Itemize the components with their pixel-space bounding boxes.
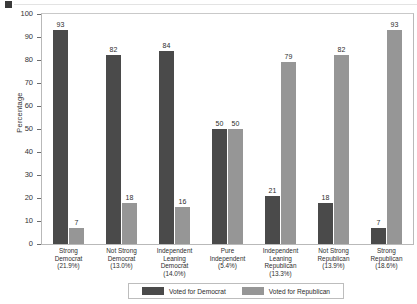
x-axis-category-line: Republican [360,255,413,263]
x-axis-category-label: IndependentLeaningRepublican(13.3%) [254,247,307,277]
y-axis-tick-label: 40 [25,147,33,156]
bars-area: 93782188416505021791882793 [42,14,413,244]
legend-swatch-republican [242,287,264,295]
bar-group: 8218 [106,14,138,244]
x-axis-category-line: Leaning [254,255,307,263]
x-axis-category-line: Republican [307,255,360,263]
x-axis-category-line: Pure [201,247,254,255]
x-axis-category-line: Independent [254,247,307,255]
x-axis-category-line: (21.9%) [42,262,95,270]
x-axis-category-line: (14.0%) [148,270,201,278]
bar [228,129,244,244]
chart-legend: Voted for Democrat Voted for Republican [128,283,344,299]
bar [159,51,175,244]
legend-swatch-democrat [142,287,164,295]
bar-value-label: 18 [110,194,150,201]
bar-value-label: 79 [269,53,309,60]
bar-group: 2179 [265,14,297,244]
bar [53,30,69,244]
y-axis-tick-label: 60 [25,101,33,110]
x-axis-category-line: Not Strong [95,247,148,255]
x-axis-category-line: Strong [360,247,413,255]
bar-value-label: 16 [163,198,203,205]
x-axis-category-line: (13.0%) [95,262,148,270]
x-axis-category-label: IndependentLeaningDemocrat(14.0%) [148,247,201,277]
bar-chart: Percentage 0102030405060708090100 937821… [0,0,417,304]
bar-group: 793 [371,14,403,244]
x-axis-category-line: Not Strong [307,247,360,255]
bar [69,228,85,244]
scan-artifact-mark [5,1,12,8]
y-axis-tick-label: 20 [25,193,33,202]
x-axis-category-line: (5.4%) [201,262,254,270]
bar-value-label: 93 [375,21,415,28]
x-axis-category-line: Leaning [148,255,201,263]
y-axis-title: Percentage [15,63,24,163]
x-axis-category-labels: StrongDemocrat(21.9%)Not StrongDemocrat(… [42,247,413,281]
x-axis-category-line: (13.9%) [307,262,360,270]
bar [387,30,403,244]
y-axis-tick-label: 30 [25,170,33,179]
y-axis-tick-label: 80 [25,55,33,64]
bar [371,228,387,244]
scan-artifact-line [14,4,417,5]
legend-label-republican: Voted for Republican [269,288,330,295]
bar-value-label: 50 [216,120,256,127]
x-axis-category-line: Republican [254,262,307,270]
x-axis-category-line: Independent [148,247,201,255]
bar [265,196,281,244]
bar-value-label: 93 [41,21,81,28]
x-axis-category-line: Independent [201,255,254,263]
y-axis-tick-label: 90 [25,32,33,41]
bar [175,207,191,244]
bar [212,129,228,244]
x-axis-category-label: StrongRepublican(18.6%) [360,247,413,270]
bar-group: 1882 [318,14,350,244]
bar-group: 937 [53,14,85,244]
x-axis-category-label: StrongDemocrat(21.9%) [42,247,95,270]
bar-value-label: 7 [57,219,97,226]
x-axis-category-label: PureIndependent(5.4%) [201,247,254,270]
x-axis-category-line: Democrat [148,262,201,270]
legend-entry-democrat: Voted for Democrat [142,287,226,295]
x-axis-category-label: Not StrongRepublican(13.9%) [307,247,360,270]
x-axis-category-label: Not StrongDemocrat(13.0%) [95,247,148,270]
bar [281,62,297,244]
bar [106,55,122,244]
legend-label-democrat: Voted for Democrat [169,288,226,295]
y-axis-tick-label: 100 [20,9,33,18]
y-axis-tick-label: 10 [25,216,33,225]
y-axis-tick-label: 70 [25,78,33,87]
bar [318,203,334,244]
legend-entry-republican: Voted for Republican [242,287,330,295]
bar-group: 8416 [159,14,191,244]
y-axis-tick-label: 50 [25,124,33,133]
bar [122,203,138,244]
bar-value-label: 82 [322,46,362,53]
x-axis-category-line: (18.6%) [360,262,413,270]
x-axis-category-line: Democrat [95,255,148,263]
x-axis-category-line: Democrat [42,255,95,263]
bar [334,55,350,244]
x-axis-category-line: Strong [42,247,95,255]
bar-value-label: 84 [147,42,187,49]
y-axis-tick-label: 0 [29,239,33,248]
x-axis-category-line: (13.3%) [254,270,307,278]
bar-value-label: 82 [94,46,134,53]
bar-group: 5050 [212,14,244,244]
